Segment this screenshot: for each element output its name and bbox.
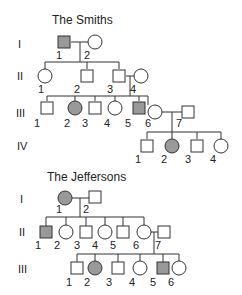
affected-male-square-icon	[157, 262, 169, 274]
male-square-icon	[81, 70, 93, 82]
individual-number: 3	[106, 276, 112, 288]
pedigree-charts: The Smiths IIIIIIIV12123412345671234 The…	[0, 0, 242, 295]
female-circle-icon	[38, 69, 52, 83]
individual-number: 3	[185, 153, 191, 165]
male-square-icon	[182, 106, 194, 118]
generation-label: III	[16, 107, 25, 119]
female-circle-icon	[137, 225, 151, 239]
generation-label: II	[19, 226, 25, 238]
jeffersons-symbols: IIIIII121234567123456	[18, 191, 186, 288]
generation-label: I	[20, 193, 23, 205]
male-square-icon	[117, 226, 129, 238]
individual-number: 3	[107, 83, 113, 95]
male-square-icon	[158, 226, 170, 238]
male-square-icon	[41, 102, 53, 114]
female-circle-icon	[88, 35, 102, 49]
individual-number: 2	[64, 117, 70, 129]
generation-label: IV	[17, 140, 28, 152]
jeffersons-title: The Jeffersons	[47, 170, 126, 184]
affected-male-square-icon	[40, 226, 52, 238]
affected-female-circle-icon	[88, 261, 102, 275]
smiths-symbols: IIIIIIIV12123412345671234	[16, 35, 228, 165]
individual-number: 1	[66, 276, 72, 288]
affected-male-square-icon	[133, 102, 145, 114]
jeffersons-pedigree: The Jeffersons IIIIII121234567123456	[18, 170, 186, 288]
individual-number: 2	[74, 83, 80, 95]
individual-number: 1	[135, 153, 141, 165]
individual-number: 4	[129, 276, 135, 288]
individual-number: 5	[125, 117, 131, 129]
individual-number: 6	[133, 239, 139, 251]
individual-number: 3	[74, 239, 80, 251]
female-circle-icon	[59, 225, 73, 239]
male-square-icon	[141, 140, 153, 152]
female-circle-icon	[134, 69, 148, 83]
generation-label: II	[17, 70, 23, 82]
female-circle-icon	[172, 261, 186, 275]
individual-number: 6	[168, 276, 174, 288]
affected-female-circle-icon	[165, 139, 179, 153]
affected-male-square-icon	[58, 36, 70, 48]
individual-number: 4	[210, 153, 216, 165]
individual-number: 1	[38, 83, 44, 95]
individual-number: 5	[110, 239, 116, 251]
individual-number: 2	[84, 49, 90, 61]
individual-number: 6	[145, 117, 151, 129]
individual-number: 4	[92, 239, 98, 251]
male-square-icon	[89, 191, 101, 203]
pedigree-figure: The Smiths IIIIIIIV12123412345671234 The…	[0, 0, 242, 295]
generation-label: I	[18, 38, 21, 50]
female-circle-icon	[214, 139, 228, 153]
individual-number: 7	[176, 117, 182, 129]
male-square-icon	[80, 226, 92, 238]
male-square-icon	[112, 262, 124, 274]
individual-number: 4	[130, 83, 136, 95]
female-circle-icon	[133, 261, 147, 275]
male-square-icon	[89, 102, 101, 114]
individual-number: 1	[56, 203, 62, 215]
female-circle-icon	[108, 101, 122, 115]
individual-number: 7	[155, 239, 161, 251]
individual-number: 1	[56, 49, 62, 61]
individual-number: 5	[150, 276, 156, 288]
individual-number: 2	[83, 203, 89, 215]
individual-number: 3	[82, 117, 88, 129]
generation-label: III	[18, 263, 27, 275]
individual-number: 2	[161, 153, 167, 165]
smiths-title: The Smiths	[52, 13, 113, 27]
male-square-icon	[113, 70, 125, 82]
individual-number: 2	[54, 239, 60, 251]
female-circle-icon	[98, 225, 112, 239]
individual-number: 4	[104, 117, 110, 129]
male-square-icon	[71, 262, 83, 274]
individual-number: 1	[35, 239, 41, 251]
individual-number: 1	[34, 117, 40, 129]
individual-number: 2	[84, 276, 90, 288]
affected-female-circle-icon	[68, 101, 82, 115]
male-square-icon	[191, 140, 203, 152]
smiths-pedigree: The Smiths IIIIIIIV12123412345671234	[16, 13, 228, 165]
